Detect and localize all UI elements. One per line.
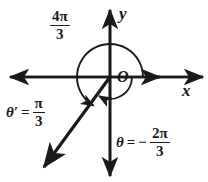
numerator-coefficient: 4 bbox=[52, 8, 60, 24]
terminal-ray bbox=[44, 77, 110, 167]
pi-symbol: π bbox=[60, 8, 68, 24]
fraction-numerator: 2π bbox=[150, 126, 170, 143]
fraction-4pi-over-3: 4π 3 bbox=[50, 9, 70, 42]
fraction-numerator: π bbox=[33, 96, 45, 113]
fraction-denominator: 3 bbox=[50, 26, 70, 42]
theta-prime-symbol: θ′ bbox=[6, 105, 18, 120]
coordinate-plane-graphic bbox=[0, 0, 208, 182]
reference-angle-label: θ′ = π 3 bbox=[6, 96, 45, 129]
pi-symbol: π bbox=[159, 125, 167, 141]
fraction-2pi-over-3: 2π 3 bbox=[150, 126, 170, 159]
fraction-denominator: 3 bbox=[33, 113, 45, 129]
angle-diagram-canvas: y x O 4π 3 θ′ = π 3 θ = − 2π 3 bbox=[0, 0, 208, 182]
x-axis-label: x bbox=[182, 82, 191, 99]
minus-sign: − bbox=[138, 135, 147, 150]
fraction-denominator: 3 bbox=[150, 143, 170, 159]
y-axis-label: y bbox=[119, 5, 127, 22]
theta-symbol: θ bbox=[116, 135, 124, 150]
equals-sign: = bbox=[21, 105, 30, 120]
main-angle-label: θ = − 2π 3 bbox=[116, 126, 170, 159]
coterminal-angle-label: 4π 3 bbox=[50, 9, 70, 42]
origin-label: O bbox=[117, 69, 129, 85]
equals-sign: = bbox=[127, 135, 136, 150]
fraction-numerator: 4π bbox=[50, 9, 70, 26]
fraction-pi-over-3: π 3 bbox=[33, 96, 45, 129]
